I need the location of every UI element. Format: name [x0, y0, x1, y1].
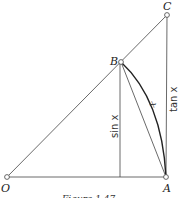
segment-oc — [7, 15, 167, 177]
diagram-canvas: O A B C sin x tan x x Figure 1.47 — [0, 0, 179, 198]
label-c: C — [163, 0, 172, 13]
chord-ab — [121, 62, 166, 177]
label-sin: sin x — [109, 114, 120, 138]
label-tan: tan x — [168, 86, 179, 112]
point-o — [5, 175, 10, 180]
label-b: B — [109, 55, 118, 68]
figure: O A B C sin x tan x x Figure 1.47 — [0, 0, 179, 198]
figure-caption: Figure 1.47 — [61, 194, 115, 198]
label-a: A — [162, 182, 171, 195]
point-b — [119, 60, 124, 65]
label-o: O — [1, 182, 10, 195]
point-a — [164, 175, 169, 180]
label-arc: x — [146, 99, 159, 109]
segment-ac-tan — [166, 15, 167, 177]
point-c — [165, 13, 170, 18]
